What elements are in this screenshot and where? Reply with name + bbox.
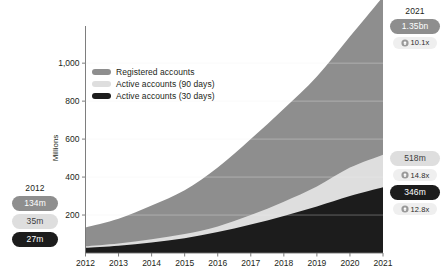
annotation-pill-registered: 134m xyxy=(12,196,58,211)
annotation-pill-registered: 1.35bn xyxy=(390,19,440,34)
legend-item-label: Active accounts (30 days) xyxy=(116,91,215,101)
x-axis-tick-label: 2021 xyxy=(374,258,393,268)
legend-item-active90: Active accounts (90 days) xyxy=(92,78,215,90)
y-axis-tick-label: 800 xyxy=(65,96,79,106)
area-chart: 2004006008001,00020122013201420152016201… xyxy=(0,0,447,279)
x-axis-tick-label: 2018 xyxy=(274,258,293,268)
annotation-pill-active30: 27m xyxy=(12,232,58,247)
annotation-group-2021-active: 518m 14.8x 346m 12.8x xyxy=(386,151,444,219)
x-axis-tick-label: 2016 xyxy=(208,258,227,268)
growth-up-icon xyxy=(401,39,409,47)
x-axis-tick-label: 2012 xyxy=(76,258,95,268)
x-axis-tick-label: 2015 xyxy=(175,258,194,268)
y-axis-tick-label: 400 xyxy=(65,172,79,182)
annotation-pill-active30: 346m xyxy=(390,185,440,200)
annotation-growth-active30: 12.8x xyxy=(393,203,437,215)
y-axis-tick-label: 200 xyxy=(65,210,79,220)
annotation-growth-value: 12.8x xyxy=(411,205,430,214)
growth-up-icon xyxy=(401,171,409,179)
y-axis-tick-label: 600 xyxy=(65,134,79,144)
annotation-growth-registered: 10.1x xyxy=(393,37,437,49)
legend-item-active30: Active accounts (30 days) xyxy=(92,90,215,102)
legend-item-registered: Registered accounts xyxy=(92,66,215,78)
x-axis-tick-label: 2019 xyxy=(307,258,326,268)
growth-up-icon xyxy=(401,205,409,213)
annotation-pill-active90: 35m xyxy=(12,214,58,229)
y-axis-title: Millions xyxy=(51,135,60,162)
x-axis-tick-label: 2020 xyxy=(340,258,359,268)
annotation-year-label: 2021 xyxy=(386,6,444,16)
legend-item-label: Active accounts (90 days) xyxy=(116,79,215,89)
x-axis-tick-label: 2014 xyxy=(142,258,161,268)
legend-swatch-icon xyxy=(92,81,111,87)
annotation-growth-value: 14.8x xyxy=(411,171,430,180)
y-axis-tick-label: 1,000 xyxy=(58,58,80,68)
annotation-growth-value: 10.1x xyxy=(411,38,430,47)
annotation-pill-active90: 518m xyxy=(390,151,440,166)
x-axis-tick-label: 2017 xyxy=(241,258,260,268)
annotation-group-2012: 2012 134m 35m 27m xyxy=(4,183,66,250)
x-axis-tick-label: 2013 xyxy=(109,258,128,268)
chart-container: 2004006008001,00020122013201420152016201… xyxy=(0,0,447,279)
annotation-year-label: 2012 xyxy=(4,183,66,193)
annotation-growth-active90: 14.8x xyxy=(393,169,437,181)
legend-swatch-icon xyxy=(92,69,111,75)
legend-item-label: Registered accounts xyxy=(116,67,194,77)
chart-legend: Registered accounts Active accounts (90 … xyxy=(92,66,215,102)
annotation-group-2021-registered: 2021 1.35bn 10.1x xyxy=(386,6,444,53)
legend-swatch-icon xyxy=(92,93,111,99)
